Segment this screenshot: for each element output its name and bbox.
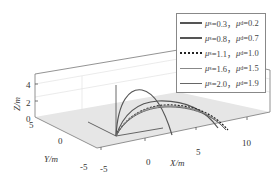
mu-s-value: =1.1， (212, 47, 236, 59)
y-tick-neg5: -5 (80, 162, 88, 172)
x-tick-0: 0 (146, 157, 151, 167)
legend-item: μs=2.0，μd=1.9 (180, 77, 259, 89)
legend-line-solid (180, 37, 202, 39)
legend-line-solid (180, 83, 202, 84)
legend-item: μs=1.6，μd=1.5 (180, 62, 259, 74)
mu-s-value: =1.6， (212, 62, 236, 74)
legend-item: μs=1.1，μd=1.0 (180, 47, 259, 59)
floor-plane (35, 92, 270, 148)
mu-d-value: =1.9 (243, 78, 258, 88)
x-tick-neg5: -5 (100, 164, 108, 174)
legend-item: μs=0.8，μd=0.7 (180, 32, 259, 44)
mu-d-value: =1.5 (243, 63, 258, 73)
mu-d-value: =0.7 (243, 33, 258, 43)
z-axis-label: Z/m (12, 96, 22, 111)
y-tick-5: 5 (29, 120, 34, 130)
mu-s-value: =0.3， (212, 17, 236, 29)
legend-item: μs=0.3，μd=0.2 (180, 17, 259, 29)
z-tick-4: 4 (26, 80, 31, 90)
mu-s-value: =2.0， (212, 77, 236, 89)
y-tick-0: 0 (58, 136, 63, 146)
mu-s-value: =0.8， (212, 32, 236, 44)
legend-line-solid (180, 22, 202, 24)
z-tick-2: 2 (26, 98, 31, 108)
mu-d-value: =0.2 (243, 18, 258, 28)
legend-line-solid (180, 68, 202, 69)
x-axis-label: X/m (169, 158, 185, 168)
legend: μs=0.3，μd=0.2 μs=0.8，μd=0.7 μs=1.1，μd=1.… (176, 13, 266, 93)
x-tick-10: 10 (242, 138, 252, 148)
y-axis-label: Y/m (44, 154, 59, 164)
mu-d-value: =1.0 (243, 48, 258, 58)
legend-line-dashed (180, 52, 202, 54)
x-tick-5: 5 (196, 147, 201, 157)
